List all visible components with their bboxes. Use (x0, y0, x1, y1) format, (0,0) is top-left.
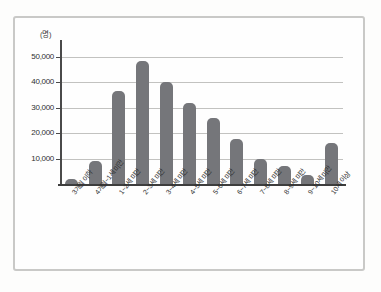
x-tick-label: 1~2세 미만 (116, 167, 142, 197)
x-tick-label: 7~8세 미만 (257, 167, 283, 197)
x-tick-label: 6~7세 미만 (234, 167, 260, 197)
x-tick-label: 3~4세 미만 (163, 167, 189, 197)
x-tick-label: 2~3세 미만 (140, 167, 166, 197)
x-tick-label: 3개월 이하 (69, 168, 94, 196)
x-tick-label: 4~5세 미만 (187, 167, 213, 197)
x-tick-label: 5~6세 미만 (210, 167, 236, 197)
x-tick-label: 8~9세 미만 (281, 167, 307, 197)
x-axis-labels: 3개월 이하4개월~1세 미만1~2세 미만2~3세 미만3~4세 미만4~5세… (0, 0, 381, 292)
x-tick-label: 10세 이상 (328, 170, 352, 197)
chart-figure: (명) 10,00020,00030,00040,00050,000 3개월 이… (0, 0, 381, 292)
